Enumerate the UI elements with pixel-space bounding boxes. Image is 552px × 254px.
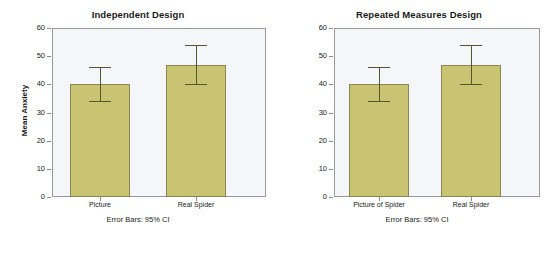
y-tick-label: 60: [306, 23, 327, 33]
y-tick-mark: [47, 113, 51, 114]
x-tick-label: Real Spider: [416, 201, 526, 208]
y-tick-label: 50: [306, 51, 327, 61]
error-bar-line: [100, 67, 101, 101]
x-tick-label: Real Spider: [141, 201, 251, 208]
y-tick-label: 0: [24, 192, 45, 202]
y-tick-label: 10: [24, 164, 45, 174]
error-bar-cap-upper: [460, 45, 482, 46]
error-bar-cap-lower: [460, 84, 482, 85]
error-bar-cap-upper: [89, 67, 111, 68]
y-tick-mark: [47, 56, 51, 57]
y-tick-mark: [47, 169, 51, 170]
x-tick-label: Picture: [45, 201, 155, 208]
y-tick-label: 10: [306, 164, 327, 174]
error-bar-footnote: Error Bars: 95% CI: [0, 215, 276, 224]
error-bar-cap-upper: [368, 67, 390, 68]
error-bar-cap-lower: [89, 101, 111, 102]
y-tick-label: 50: [24, 51, 45, 61]
y-tick-mark: [329, 84, 333, 85]
chart-pair-figure: Independent Design Mean Anxiety 01020304…: [0, 0, 552, 254]
error-bar-footnote: Error Bars: 95% CI: [292, 215, 542, 224]
error-bar-line: [379, 67, 380, 101]
chart-panel-repeated-measures-design: Repeated Measures Design Mean 0102030405…: [276, 0, 552, 254]
y-tick-label: 40: [306, 79, 327, 89]
y-tick-label: 60: [24, 23, 45, 33]
y-tick-label: 20: [306, 136, 327, 146]
error-bar-line: [471, 45, 472, 84]
chart-panel-independent-design: Independent Design Mean Anxiety 01020304…: [0, 0, 276, 254]
error-bar-cap-lower: [368, 101, 390, 102]
y-tick-mark: [47, 28, 51, 29]
y-tick-mark: [329, 141, 333, 142]
y-tick-mark: [47, 84, 51, 85]
y-tick-label: 40: [24, 79, 45, 89]
error-bar-cap-upper: [185, 45, 207, 46]
y-tick-label: 30: [306, 108, 327, 118]
y-tick-mark: [47, 141, 51, 142]
error-bar-cap-lower: [185, 84, 207, 85]
chart-title: Repeated Measures Design: [294, 9, 544, 20]
error-bar-line: [196, 45, 197, 84]
y-tick-mark: [329, 56, 333, 57]
y-tick-label: 20: [24, 136, 45, 146]
y-tick-mark: [329, 197, 333, 198]
y-tick-mark: [329, 169, 333, 170]
chart-title: Independent Design: [0, 9, 276, 20]
y-tick-mark: [47, 197, 51, 198]
y-tick-label: 30: [24, 108, 45, 118]
y-tick-mark: [329, 113, 333, 114]
y-tick-mark: [329, 28, 333, 29]
